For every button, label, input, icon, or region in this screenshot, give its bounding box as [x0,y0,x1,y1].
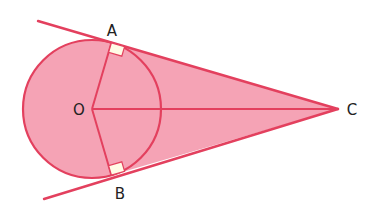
label-B: B [115,185,125,203]
label-C: C [347,101,357,119]
label-A: A [107,22,118,40]
tangent-diagram: A O B C [0,0,382,213]
label-O: O [73,101,85,119]
